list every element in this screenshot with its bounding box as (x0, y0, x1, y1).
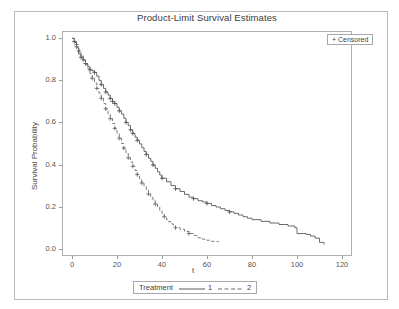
legend-swatch-solid (179, 285, 205, 291)
y-tick-label: 0.6 (32, 117, 56, 126)
plot-area (62, 31, 352, 256)
x-tick-mark (207, 256, 208, 259)
legend-title: Treatment (139, 283, 173, 292)
y-tick-label: 0.2 (32, 202, 56, 211)
censor-marks-1 (72, 39, 231, 214)
x-tick-mark (342, 256, 343, 259)
y-tick-label: 0.0 (32, 244, 56, 253)
x-tick-label: 120 (327, 260, 357, 269)
legend-label-1: 1 (208, 283, 212, 292)
legend-swatch-dashed (218, 285, 244, 291)
survival-plot-screenshot: Product-Limit Survival Estimates Surviva… (0, 0, 399, 309)
legend-entry-1: 1 (179, 283, 212, 292)
x-tick-mark (162, 256, 163, 259)
treatment-legend: Treatment 1 2 (133, 281, 257, 294)
x-tick-label: 0 (57, 260, 87, 269)
censor-marks-2 (74, 45, 191, 236)
survival-curve-1 (72, 38, 324, 244)
legend-entry-2: 2 (218, 283, 251, 292)
x-tick-label: 80 (237, 260, 267, 269)
x-tick-label: 60 (192, 260, 222, 269)
y-axis-label: Survival Probability (30, 122, 39, 190)
x-tick-mark (297, 256, 298, 259)
x-tick-label: 20 (102, 260, 132, 269)
x-tick-mark (117, 256, 118, 259)
survival-curve-2 (72, 38, 218, 242)
y-tick-label: 0.8 (32, 75, 56, 84)
x-tick-label: 100 (282, 260, 312, 269)
censored-legend-label: + Censored (332, 36, 368, 43)
legend-label-2: 2 (247, 283, 251, 292)
survival-curves-svg (63, 32, 351, 255)
y-tick-label: 0.4 (32, 160, 56, 169)
y-tick-label: 1.0 (32, 33, 56, 42)
x-tick-mark (72, 256, 73, 259)
x-tick-label: 40 (147, 260, 177, 269)
censored-legend-box: + Censored (327, 34, 373, 45)
x-tick-mark (252, 256, 253, 259)
page-title: Product-Limit Survival Estimates (62, 12, 352, 23)
